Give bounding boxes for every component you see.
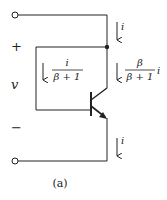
collector-current-denominator: β + 1 (126, 71, 154, 82)
bottom-terminal (12, 158, 18, 164)
npn-transistor (91, 88, 107, 119)
plus-label: + (11, 39, 22, 54)
top-terminal (12, 12, 18, 18)
collector-current-suffix: i (157, 65, 160, 76)
base-current-denominator: β + 1 (53, 71, 81, 82)
base-current-numerator: i (65, 57, 68, 68)
bottom-wire (18, 118, 107, 161)
transistor-collector-leg (91, 88, 107, 100)
top-wire (18, 15, 107, 47)
collector-current-numerator: β (136, 57, 143, 68)
minus-label: − (11, 120, 22, 135)
bottom-current-label: i (121, 135, 124, 146)
top-current-label: i (121, 21, 124, 32)
figure-caption: (a) (52, 177, 67, 190)
circuit-diagram: + v − i i β + 1 β β + 1 i i (a) (0, 0, 167, 200)
voltage-label: v (11, 77, 19, 92)
